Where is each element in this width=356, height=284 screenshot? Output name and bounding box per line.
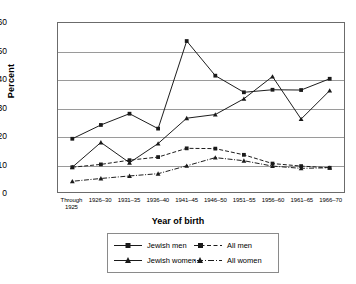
data-point-marker: [270, 74, 275, 78]
data-point-marker: [128, 112, 132, 116]
y-tick-label: 30: [0, 104, 7, 113]
data-point-marker: [328, 77, 332, 81]
data-point-marker: [213, 74, 217, 78]
legend-item-all-men[interactable]: All men: [193, 240, 273, 251]
x-axis-title: Year of birth: [0, 216, 356, 226]
legend-item-all-women[interactable]: All women: [193, 255, 273, 266]
data-point-marker: [184, 163, 189, 167]
series-line: [72, 158, 329, 182]
data-point-marker: [99, 123, 103, 127]
y-tick-label: 0: [0, 189, 7, 198]
data-point-marker: [242, 158, 247, 162]
data-point-marker: [271, 88, 275, 92]
series-lines: [58, 23, 344, 192]
y-axis-title: Percent: [6, 26, 16, 136]
legend-label: Jewish women: [147, 256, 196, 265]
legend-sample-solid-triangle: [113, 255, 143, 266]
data-point-marker: [70, 165, 74, 169]
legend-label: All women: [227, 256, 262, 265]
legend-sample-solid-square: [113, 240, 143, 251]
chart-figure: Percent 0102030405060 Through19251926–30…: [0, 0, 356, 284]
data-point-marker: [242, 153, 246, 157]
data-point-marker: [99, 163, 103, 167]
data-point-marker: [70, 179, 75, 183]
series-line: [72, 148, 329, 167]
data-point-marker: [156, 155, 160, 159]
legend-item-jewish-men[interactable]: Jewish men: [113, 240, 193, 251]
legend-row: Jewish men All men: [113, 238, 273, 253]
data-point-marker: [128, 158, 132, 162]
y-tick-label: 10: [0, 161, 7, 170]
chart-legend: Jewish men All men Jewish women: [107, 233, 279, 273]
data-point-marker: [242, 90, 246, 94]
plot-area: [57, 22, 345, 193]
y-tick-label: 50: [0, 47, 7, 56]
y-tick-label: 60: [0, 18, 7, 27]
legend-sample-dashed-square: [193, 240, 223, 251]
data-point-marker: [156, 127, 160, 131]
x-tick-label: 1966–70: [309, 197, 353, 204]
legend-item-jewish-women[interactable]: Jewish women: [113, 255, 193, 266]
data-point-marker: [70, 137, 74, 141]
data-point-marker: [213, 155, 218, 159]
data-point-marker: [327, 88, 332, 92]
legend-row: Jewish women All women: [113, 253, 273, 268]
legend-label: All men: [227, 241, 252, 250]
data-point-marker: [185, 146, 189, 150]
data-point-marker: [213, 147, 217, 151]
legend-sample-dashdot-triangle: [193, 255, 223, 266]
series-line: [72, 41, 329, 139]
legend-label: Jewish men: [147, 241, 187, 250]
data-point-marker: [99, 140, 104, 144]
data-point-marker: [299, 88, 303, 92]
y-tick-label: 20: [0, 132, 7, 141]
data-point-marker: [185, 39, 189, 43]
y-tick-label: 40: [0, 75, 7, 84]
